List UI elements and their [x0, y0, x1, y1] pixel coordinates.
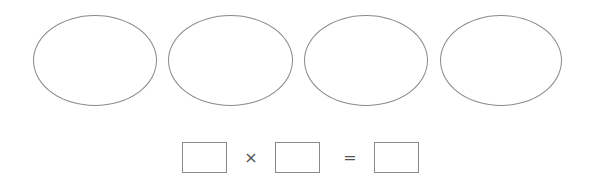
ellipse-2 — [168, 15, 293, 106]
operand-1-box[interactable] — [182, 142, 227, 173]
result-box[interactable] — [374, 142, 419, 173]
times-operator: × — [241, 150, 261, 166]
operand-2-box[interactable] — [275, 142, 320, 173]
ellipse-4 — [440, 15, 562, 106]
equals-operator: = — [340, 150, 360, 166]
ellipse-1 — [33, 15, 157, 106]
ellipse-3 — [304, 15, 428, 106]
